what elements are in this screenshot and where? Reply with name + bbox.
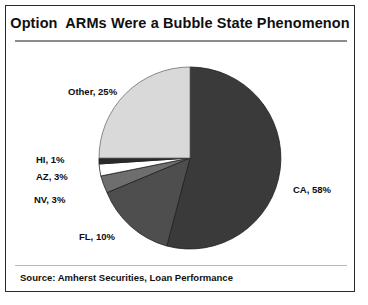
page-title: Option ARMs Were a Bubble State Phenomen… — [10, 15, 349, 31]
pie-label-ca: CA, 58% — [293, 184, 331, 195]
title-bar: Option ARMs Were a Bubble State Phenomen… — [6, 14, 354, 32]
pie-label-fl: FL, 10% — [79, 231, 115, 242]
source-divider — [15, 265, 347, 266]
source-note: Source: Amherst Securities, Loan Perform… — [20, 272, 233, 283]
pie-label-other: Other, 25% — [68, 86, 117, 97]
chart-figure: Option ARMs Were a Bubble State Phenomen… — [5, 5, 355, 292]
pie-label-az: AZ, 3% — [36, 171, 68, 182]
pie-slice-other — [99, 67, 190, 158]
pie-label-nv: NV, 3% — [34, 194, 65, 205]
pie-chart — [6, 44, 354, 256]
pie-slices — [99, 67, 281, 249]
pie-label-hi: HI, 1% — [36, 154, 65, 165]
title-divider — [15, 40, 347, 42]
plot-area: Other, 25% HI, 1% AZ, 3% NV, 3% FL, 10% … — [6, 44, 354, 256]
